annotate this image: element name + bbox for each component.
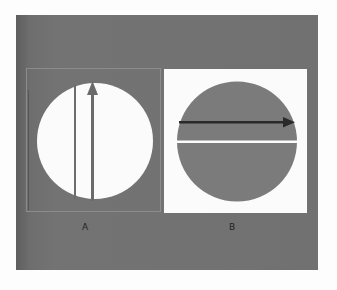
panel-b-divider-line — [176, 141, 298, 144]
panel-a-arrow-shaft — [91, 92, 94, 201]
panel-b-figure — [176, 82, 298, 202]
panel-a-vertical-line — [74, 85, 76, 199]
figure-canvas: A B — [0, 0, 337, 290]
panel-b-label: B — [222, 222, 242, 232]
panel-a-figure — [37, 81, 153, 201]
panel-a-circle — [37, 83, 153, 199]
diagram-figures — [0, 0, 337, 290]
panel-a-label: A — [75, 222, 95, 232]
panel-b-arrow-shaft — [179, 121, 287, 124]
